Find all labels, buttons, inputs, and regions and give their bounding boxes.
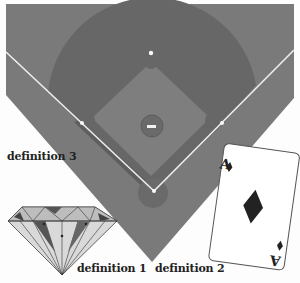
definition-2-label: definition 2 bbox=[155, 262, 224, 275]
gem-sparkle bbox=[61, 235, 64, 238]
definition-3-label: definition 3 bbox=[7, 150, 76, 163]
gem-sparkle bbox=[43, 223, 46, 226]
gem-sparkle bbox=[85, 223, 88, 226]
gem-diamond-illustration bbox=[0, 0, 300, 283]
definition-1-label: definition 1 bbox=[77, 262, 146, 275]
